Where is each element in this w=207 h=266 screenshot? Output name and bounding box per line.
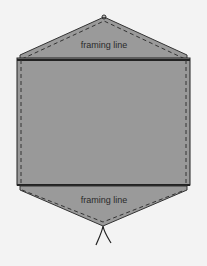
bottom-flap bbox=[20, 186, 187, 226]
bottom-framing-label: framing line bbox=[81, 195, 128, 205]
top-flap bbox=[20, 17, 187, 60]
main-panel bbox=[17, 58, 190, 185]
pattern-diagram: framing line framing line bbox=[0, 0, 207, 266]
top-framing-label: framing line bbox=[81, 40, 128, 50]
tie-strings-icon bbox=[96, 226, 111, 245]
